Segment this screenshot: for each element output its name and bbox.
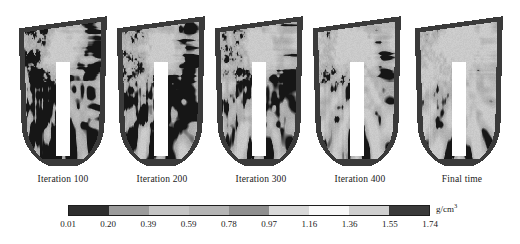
colorbar-segment-6	[269, 206, 309, 215]
colorbar-segment-9	[389, 206, 429, 215]
colorbar-segment-8	[349, 206, 389, 215]
colorbar-tick-9: 1.55	[370, 219, 410, 229]
colorbar-units-exponent: 3	[454, 202, 457, 209]
colorbar-segment-7	[309, 206, 349, 215]
caption-row: Iteration 100Iteration 200Iteration 300I…	[0, 174, 520, 192]
colorbar-units-label: g/cm3	[436, 202, 457, 214]
panel-row	[0, 0, 520, 170]
colorbar-segment-4	[189, 206, 229, 215]
bone-section-panel-1	[12, 6, 112, 168]
colorbar-tick-2: 0.20	[88, 219, 128, 229]
bone-section-panel-3	[208, 6, 308, 168]
panel-caption-5: Final time	[402, 174, 520, 184]
colorbar-tick-labels: 0.010.200.390.590.780.971.161.361.551.74	[0, 219, 520, 233]
colorbar-units-text: g/cm	[436, 204, 454, 214]
bone-density-map-5	[408, 6, 508, 168]
density-colorbar	[68, 205, 430, 216]
colorbar-segment-5	[229, 206, 269, 215]
colorbar-tick-10: 1.74	[410, 219, 450, 229]
colorbar-tick-6: 0.97	[249, 219, 289, 229]
colorbar-tick-7: 1.16	[289, 219, 329, 229]
colorbar-tick-3: 0.39	[128, 219, 168, 229]
colorbar-tick-1: 0.01	[48, 219, 88, 229]
colorbar-tick-5: 0.78	[209, 219, 249, 229]
bone-density-map-4	[306, 6, 406, 168]
bone-section-panel-4	[306, 6, 406, 168]
bone-section-panel-5	[408, 6, 508, 168]
colorbar-tick-4: 0.59	[169, 219, 209, 229]
bone-section-panel-2	[110, 6, 210, 168]
colorbar-segment-2	[109, 206, 149, 215]
bone-remodeling-figure: Iteration 100Iteration 200Iteration 300I…	[0, 0, 520, 244]
colorbar-group: g/cm3 0.010.200.390.590.780.971.161.361.…	[0, 200, 520, 240]
colorbar-tick-8: 1.36	[330, 219, 370, 229]
colorbar-segment-3	[149, 206, 189, 215]
bone-density-map-3	[208, 6, 308, 168]
bone-density-map-1	[12, 6, 112, 168]
colorbar-segment-1	[69, 206, 109, 215]
bone-density-map-2	[110, 6, 210, 168]
